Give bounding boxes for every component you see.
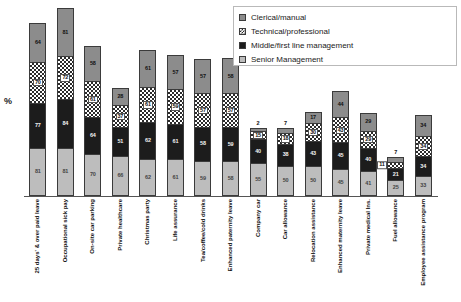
- bar-value-label: 77: [35, 123, 41, 129]
- legend-label: Senior Management: [251, 55, 323, 64]
- bar-segment-senior: 58: [223, 161, 238, 195]
- stacked-bar[interactable]: 58616470: [84, 46, 101, 196]
- stacked-bar[interactable]: 44434545: [332, 91, 349, 196]
- stacked-bar[interactable]: 17304350: [305, 112, 322, 196]
- bar-value-label: 11: [377, 162, 386, 170]
- bar-value-label: 81: [62, 30, 68, 36]
- bar-value-label: 58: [90, 61, 96, 67]
- bar-value-label: 44: [338, 102, 344, 108]
- bar-value-label: 29: [365, 119, 371, 125]
- bar-value-label: 45: [338, 153, 344, 159]
- stacked-bar[interactable]: 61616262: [139, 50, 156, 196]
- x-tick-label: Company car: [255, 199, 262, 237]
- bar-segment-technical: 70: [30, 62, 45, 103]
- x-tick-label: On-site car parking: [89, 199, 96, 254]
- legend-item-senior[interactable]: Senior Management: [239, 53, 451, 66]
- bar-segment-senior: 50: [278, 166, 293, 195]
- bar-group: 61616262: [134, 8, 162, 196]
- stacked-bar[interactable]: 57596161: [167, 55, 184, 196]
- bar-segment-technical: 61: [85, 81, 100, 117]
- x-tick-11: Relocation assistance: [299, 199, 327, 299]
- bar-value-label: 29: [363, 136, 373, 144]
- stacked-bar[interactable]: 57575859: [194, 59, 211, 196]
- x-axis-line: [24, 196, 438, 197]
- legend-swatch-clerical-icon: [239, 14, 246, 21]
- bar-value-label: 34: [420, 123, 426, 129]
- bar-segment-senior: 41: [361, 171, 376, 195]
- bar-segment-middle: 61: [168, 124, 183, 160]
- bar-value-label: 43: [336, 127, 346, 135]
- x-tick-label: Relocation assistance: [310, 199, 317, 262]
- bar-segment-technical: 37: [113, 105, 128, 127]
- bar-value-label: 55: [255, 177, 261, 183]
- x-tick-13: Private medical Ins.: [354, 199, 382, 299]
- bar-value-label: 59: [171, 103, 181, 111]
- stacked-bar[interactable]: 58575958: [222, 58, 239, 196]
- bar-segment-middle: 58: [195, 127, 210, 161]
- bar-value-label: 34: [420, 164, 426, 170]
- bar-segment-clerical: 81: [58, 9, 73, 56]
- bar-segment-senior: 66: [113, 156, 128, 195]
- bar-value-label: 2: [257, 121, 260, 127]
- stacked-bar[interactable]: 81728481: [57, 8, 74, 196]
- x-tick-label: Tea/coffee/cold drinks: [200, 199, 207, 262]
- bar-segment-clerical: 28: [113, 89, 128, 105]
- bar-segment-clerical: 57: [168, 56, 183, 89]
- x-tick-label: Occupational sick pay: [62, 199, 69, 262]
- bar-value-label: 15: [253, 132, 263, 140]
- bar-value-label: 61: [88, 96, 98, 104]
- bar-value-label: 45: [338, 180, 344, 186]
- legend-swatch-senior-icon: [239, 56, 246, 63]
- stacked-bar[interactable]: 2154055: [250, 128, 267, 196]
- legend-item-technical[interactable]: Technical/professional: [239, 25, 451, 38]
- bar-group: 28375166: [107, 8, 135, 196]
- bar-segment-senior: 25: [388, 180, 403, 195]
- bar-segment-senior: 62: [140, 159, 155, 195]
- legend-item-middle[interactable]: Middle/first line management: [239, 39, 451, 52]
- x-tick-label: Private healthcare: [117, 199, 124, 251]
- x-tick-1: 25 days' & over paid leave: [24, 199, 52, 299]
- x-tick-label: Christmas party: [144, 199, 151, 245]
- bar-value-label: 61: [143, 101, 153, 109]
- bar-segment-middle: 62: [140, 122, 155, 158]
- bar-group: 58616470: [79, 8, 107, 196]
- bar-value-label: 50: [283, 178, 289, 184]
- bar-value-label: 84: [62, 121, 68, 127]
- bar-value-label: 70: [90, 172, 96, 178]
- stacked-bar[interactable]: 34343433: [415, 115, 432, 196]
- bar-segment-senior: 55: [251, 163, 266, 195]
- bar-value-label: 7: [394, 150, 397, 156]
- bar-segment-senior: 81: [30, 148, 45, 195]
- bar-value-label: 62: [145, 175, 151, 181]
- x-tick-2: Occupational sick pay: [52, 199, 80, 299]
- x-tick-14: Fuel allowance: [382, 199, 410, 299]
- bar-value-label: 57: [200, 74, 206, 80]
- bar-segment-clerical: 29: [361, 114, 376, 131]
- legend-item-clerical[interactable]: Clerical/manual: [239, 11, 451, 24]
- bar-segment-clerical: 64: [30, 24, 45, 61]
- bar-segment-technical: 34: [416, 136, 431, 156]
- bar-value-label: 70: [33, 79, 43, 87]
- bar-segment-middle: 38: [278, 144, 293, 166]
- stacked-bar[interactable]: 64707781: [29, 23, 46, 196]
- stacked-bar[interactable]: 7112125: [387, 157, 404, 196]
- stacked-bar[interactable]: 7183850: [277, 128, 294, 196]
- stacked-bar[interactable]: 28375166: [112, 88, 129, 196]
- bar-segment-clerical: 57: [195, 60, 210, 93]
- bar-segment-technical: 43: [333, 117, 348, 142]
- bar-value-label: 40: [365, 157, 371, 163]
- bar-value-label: 81: [35, 169, 41, 175]
- bar-segment-technical: 72: [58, 56, 73, 98]
- bar-segment-senior: 50: [306, 166, 321, 195]
- x-tick-label: Car allowance: [282, 199, 289, 239]
- bar-value-label: 51: [118, 139, 124, 145]
- bar-value-label: 7: [284, 121, 287, 127]
- bar-value-label: 58: [200, 141, 206, 147]
- bar-value-label: 57: [173, 70, 179, 76]
- bar-group: 57575859: [189, 8, 217, 196]
- x-tick-7: Tea/coffee/cold drinks: [189, 199, 217, 299]
- stacked-bar[interactable]: 29294041: [360, 113, 377, 196]
- bar-value-label: 81: [62, 169, 68, 175]
- bar-segment-middle: 51: [113, 127, 128, 157]
- bar-value-label: 64: [90, 133, 96, 139]
